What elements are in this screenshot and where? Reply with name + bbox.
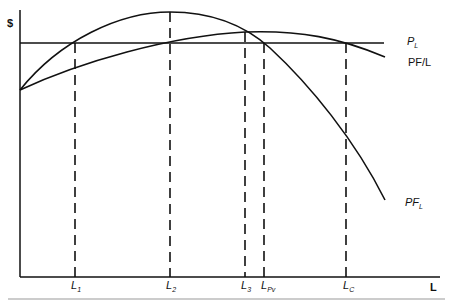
y-axis-label: $ (7, 18, 13, 29)
chart-canvas (0, 0, 449, 304)
pl-label: PL (407, 36, 418, 49)
tick-l1: L1 (71, 280, 81, 293)
tick-lpv: LPv (261, 280, 275, 293)
x-axis-label: L (430, 282, 437, 293)
tick-lc: LC (343, 280, 354, 293)
pf-per-l-label: PF/L (408, 57, 431, 68)
tick-l2: L2 (166, 280, 176, 293)
tick-l3: L3 (241, 280, 251, 293)
pfl-label: PFL (405, 197, 423, 210)
